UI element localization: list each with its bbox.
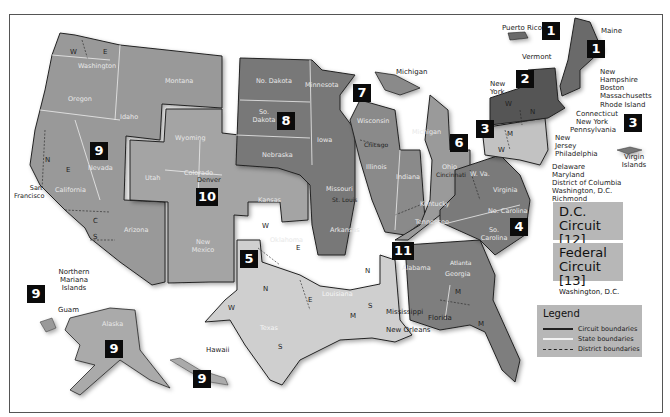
label-maine: Maine bbox=[601, 27, 622, 35]
circuit-7-label: 7 bbox=[353, 84, 371, 102]
district-letter: W bbox=[70, 48, 77, 56]
state-california: California bbox=[55, 186, 86, 194]
circuit-5-region bbox=[205, 240, 412, 385]
label-northern-mariana: Northern Mariana Islands bbox=[56, 268, 92, 292]
state-arkansas: Arkansas bbox=[330, 226, 360, 234]
federal-circuit-city: Washington, D.C. bbox=[559, 288, 623, 297]
label-boston: Boston bbox=[600, 84, 624, 92]
state-utah: Utah bbox=[145, 174, 160, 182]
state-missouri: Missouri bbox=[326, 185, 353, 193]
label-washington-dc: Washington, D.C. bbox=[552, 187, 612, 195]
label-new-york-state: New York bbox=[490, 80, 512, 96]
label-pennsylvania: Pennsylvania bbox=[570, 126, 616, 134]
label-guam: Guam bbox=[58, 306, 79, 314]
label-florida: Florida bbox=[428, 314, 452, 322]
label-district-of-columbia: District of Columbia bbox=[552, 179, 621, 187]
legend: Legend Circuit boundaries State boundari… bbox=[537, 305, 642, 357]
state-so-dakota: So. Dakota bbox=[250, 108, 278, 124]
label-atlanta: Atlanta bbox=[450, 259, 472, 267]
district-line-swatch bbox=[543, 349, 573, 350]
state-w-va: W. Va. bbox=[470, 170, 490, 178]
district-letter: E bbox=[296, 244, 300, 252]
state-wisconsin: Wisconsin bbox=[357, 117, 389, 125]
federal-circuit-box: Federal Circuit [13] Washington, D.C. bbox=[553, 243, 623, 281]
circuit-4-label: 4 bbox=[510, 218, 528, 236]
state-kentucky: Kentucky bbox=[420, 200, 450, 208]
district-letter: N bbox=[530, 108, 535, 116]
label-san-francisco: San Francisco bbox=[14, 184, 42, 200]
dc-circuit-box: D.C. Circuit [12] Washington, D.C. bbox=[553, 202, 623, 240]
label-cincinnati: Cincinnati bbox=[436, 171, 466, 179]
label-philadelphia: Philadelphia bbox=[555, 150, 598, 158]
label-rhode-island: Rhode Island bbox=[600, 101, 645, 109]
label-maryland: Maryland bbox=[552, 171, 584, 179]
legend-label: District boundaries bbox=[578, 345, 640, 353]
label-vermont: Vermont bbox=[522, 53, 552, 61]
district-letter: E bbox=[103, 48, 107, 56]
label-puerto-rico: Puerto Rico bbox=[502, 24, 542, 32]
label-michigan: Michigan bbox=[396, 68, 427, 76]
circuit-5-label: 5 bbox=[240, 250, 258, 268]
circuit-line-swatch bbox=[543, 328, 573, 330]
state-iowa: Iowa bbox=[317, 136, 332, 144]
state-arizona: Arizona bbox=[124, 226, 148, 234]
label-hawaii: Hawaii bbox=[206, 346, 229, 354]
district-letter: M bbox=[350, 312, 356, 320]
state-michigan-lp: Michigan bbox=[412, 128, 441, 136]
state-washington: Washington bbox=[78, 62, 116, 70]
legend-item-state: State boundaries bbox=[543, 335, 634, 343]
label-massachusetts: Massachusetts bbox=[600, 92, 652, 100]
district-letter: E bbox=[66, 166, 70, 174]
state-nebraska: Nebraska bbox=[262, 151, 293, 159]
label-delaware: Delaware bbox=[552, 163, 585, 171]
label-new-hampshire: New Hampshire bbox=[600, 68, 640, 84]
label-denver: Denver bbox=[197, 176, 221, 184]
state-alaska: Alaska bbox=[102, 320, 123, 328]
legend-label: State boundaries bbox=[578, 335, 634, 343]
state-kansas: Kansas bbox=[258, 196, 281, 204]
circuit-9-label: 9 bbox=[90, 142, 108, 160]
circuit-10-label: 10 bbox=[196, 188, 218, 206]
label-st-louis: St. Louis bbox=[332, 196, 357, 204]
state-montana: Montana bbox=[165, 77, 193, 85]
label-chicago: Chicago bbox=[364, 141, 388, 149]
label-new-jersey: New Jersey bbox=[555, 134, 583, 150]
state-wyoming: Wyoming bbox=[175, 134, 206, 142]
dc-circuit-title-1: D.C. bbox=[559, 205, 623, 219]
circuit-9-label-hawaii: 9 bbox=[193, 370, 211, 388]
circuit-9-label-guam: 9 bbox=[27, 285, 45, 303]
district-letter: W bbox=[228, 304, 235, 312]
district-letter: N bbox=[365, 267, 370, 275]
federal-circuit-title-2: Circuit [13] bbox=[559, 260, 623, 288]
district-letter: S bbox=[278, 343, 282, 351]
district-letter: M bbox=[455, 288, 461, 296]
label-virgin-islands: Virgin Islands bbox=[620, 153, 648, 169]
state-idaho: Idaho bbox=[120, 113, 138, 121]
circuit-1-label-puerto-rico: 1 bbox=[542, 22, 560, 40]
circuit-1-label: 1 bbox=[587, 40, 605, 58]
label-mississippi: Mississippi bbox=[386, 308, 423, 316]
circuit-9-label-alaska: 9 bbox=[105, 340, 123, 358]
district-letter: W bbox=[498, 146, 505, 154]
legend-title: Legend bbox=[543, 308, 580, 319]
label-new-york-city: New York bbox=[576, 118, 608, 126]
district-letter: N bbox=[263, 285, 268, 293]
district-letter: W bbox=[505, 100, 512, 108]
district-letter: M bbox=[478, 320, 484, 328]
state-minnesota: Minnesota bbox=[305, 81, 339, 89]
legend-item-circuit: Circuit boundaries bbox=[543, 325, 637, 333]
state-texas: Texas bbox=[260, 324, 278, 332]
label-new-orleans: New Orleans bbox=[386, 326, 431, 334]
state-virginia: Virginia bbox=[493, 186, 518, 194]
district-letter: E bbox=[308, 296, 312, 304]
district-letter: W bbox=[262, 222, 269, 230]
circuit-2-label: 2 bbox=[516, 70, 534, 88]
state-illinois: Illinois bbox=[366, 163, 387, 171]
state-line-swatch bbox=[543, 338, 573, 340]
federal-circuit-title-1: Federal bbox=[559, 246, 623, 260]
state-oregon: Oregon bbox=[68, 95, 92, 103]
state-so-carolina: So. Carolina bbox=[478, 226, 510, 242]
state-georgia: Georgia bbox=[445, 270, 471, 278]
state-tennessee: Tennessee bbox=[415, 218, 449, 226]
state-no-dakota: No. Dakota bbox=[256, 77, 292, 85]
